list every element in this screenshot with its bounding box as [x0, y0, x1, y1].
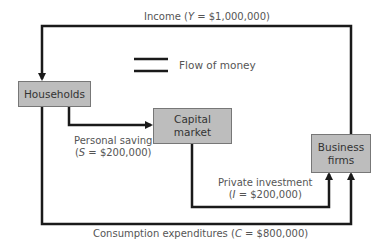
households-node: Households [18, 81, 91, 107]
business-firms-label: Business firms [318, 141, 364, 167]
consumption-label: Consumption expenditures (C = $800,000) [93, 228, 308, 240]
saving-arrow [69, 107, 151, 125]
income-label: Income (Y = $1,000,000) [144, 11, 270, 23]
business-firms-node: Business firms [311, 134, 371, 173]
saving-label: Personal saving (S = $200,000) [74, 135, 152, 159]
investment-label: Private investment (I = $200,000) [218, 177, 313, 201]
capital-market-node: Capital market [153, 108, 232, 144]
legend-label: Flow of money [179, 59, 256, 71]
capital-market-label: Capital market [174, 113, 211, 139]
